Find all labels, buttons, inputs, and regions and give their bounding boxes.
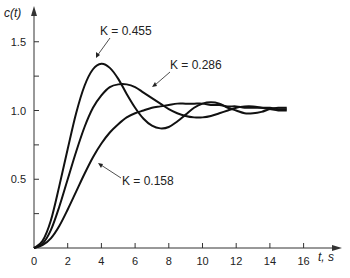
step-response-chart: 02468101214160.51.01.5 K = 0.455 K = 0.2… bbox=[0, 0, 350, 278]
axes: 02468101214160.51.01.5 bbox=[11, 6, 342, 267]
x-tick-label: 4 bbox=[98, 255, 104, 267]
x-tick-label: 0 bbox=[31, 255, 37, 267]
y-tick-label: 1.5 bbox=[11, 36, 26, 48]
x-axis-label: t, s bbox=[318, 250, 334, 264]
x-tick-label: 6 bbox=[132, 255, 138, 267]
x-tick-label: 14 bbox=[264, 255, 276, 267]
curves bbox=[34, 64, 287, 248]
label-k-0455: K = 0.455 bbox=[100, 24, 152, 38]
y-tick-label: 0.5 bbox=[11, 173, 26, 185]
x-tick-label: 8 bbox=[166, 255, 172, 267]
x-tick-label: 16 bbox=[297, 255, 309, 267]
x-tick-label: 2 bbox=[65, 255, 71, 267]
label-k-0158: K = 0.158 bbox=[122, 174, 174, 188]
y-tick-label: 1.0 bbox=[11, 105, 26, 117]
x-tick-label: 12 bbox=[230, 255, 242, 267]
x-tick-label: 10 bbox=[196, 255, 208, 267]
y-axis-label: c(t) bbox=[4, 6, 21, 20]
response-curve bbox=[34, 64, 287, 248]
label-k-0286: K = 0.286 bbox=[170, 58, 222, 72]
